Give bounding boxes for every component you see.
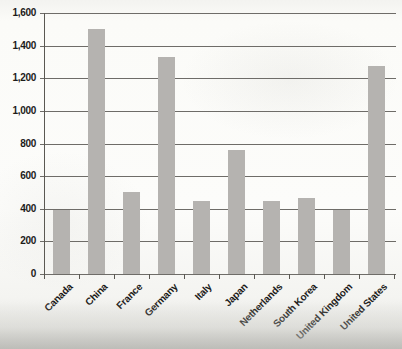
gridline bbox=[40, 13, 396, 14]
x-category-label: Italy bbox=[193, 281, 214, 302]
y-tick-label: 1,000 bbox=[0, 105, 36, 117]
x-axis-tick bbox=[289, 274, 290, 279]
x-category-label: France bbox=[114, 281, 144, 311]
bar-france bbox=[123, 192, 140, 274]
y-tick-label: 1,600 bbox=[0, 7, 36, 19]
bar-united-states bbox=[368, 66, 385, 274]
bar-italy bbox=[193, 201, 210, 274]
x-category-label: Canada bbox=[42, 281, 74, 313]
bar-netherlands bbox=[263, 201, 280, 274]
gridline bbox=[40, 274, 396, 275]
bar-united-kingdom bbox=[333, 210, 350, 274]
y-tick-label: 600 bbox=[0, 170, 36, 182]
y-axis-line bbox=[44, 13, 45, 274]
x-axis-tick bbox=[254, 274, 255, 279]
y-tick-label: 1,200 bbox=[0, 72, 36, 84]
y-tick-label: 0 bbox=[0, 268, 36, 280]
y-tick-label: 400 bbox=[0, 203, 36, 215]
bar-germany bbox=[158, 57, 175, 274]
bar-japan bbox=[228, 150, 245, 274]
x-axis-tick bbox=[219, 274, 220, 279]
x-axis-tick bbox=[114, 274, 115, 279]
y-tick-label: 200 bbox=[0, 235, 36, 247]
bar-south-korea bbox=[298, 198, 315, 274]
x-axis-tick bbox=[394, 274, 395, 279]
x-axis-tick bbox=[184, 274, 185, 279]
x-axis-tick bbox=[44, 274, 45, 279]
bar-canada bbox=[53, 210, 70, 274]
x-category-label: China bbox=[83, 281, 110, 308]
x-axis-tick bbox=[79, 274, 80, 279]
y-tick-label: 1,400 bbox=[0, 40, 36, 52]
x-axis-tick bbox=[149, 274, 150, 279]
x-category-label: Japan bbox=[222, 281, 250, 309]
x-axis-tick bbox=[324, 274, 325, 279]
x-axis-tick bbox=[359, 274, 360, 279]
x-category-label: Germany bbox=[142, 281, 179, 318]
scanned-chart-page: 02004006008001,0001,2001,4001,600CanadaC… bbox=[0, 0, 402, 349]
bar-chart: 02004006008001,0001,2001,4001,600CanadaC… bbox=[0, 0, 402, 349]
bar-china bbox=[88, 29, 105, 274]
y-tick-label: 800 bbox=[0, 138, 36, 150]
